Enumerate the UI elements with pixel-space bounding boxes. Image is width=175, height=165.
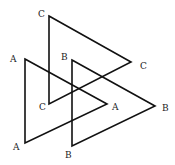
- triangle-diagram: C C C A A A B B B: [0, 0, 175, 165]
- label-c-bottom: C: [39, 102, 46, 112]
- label-a-bottom: A: [12, 142, 20, 152]
- triangle-a-shape: [25, 59, 107, 143]
- label-b-right: B: [162, 103, 169, 113]
- label-a-right: A: [111, 102, 119, 112]
- label-a-top: A: [9, 54, 17, 64]
- label-c-right: C: [140, 61, 147, 71]
- label-c-top: C: [38, 9, 45, 19]
- label-b-bottom: B: [65, 150, 72, 160]
- label-b-top: B: [61, 52, 68, 62]
- triangle-a: A A A: [9, 54, 119, 152]
